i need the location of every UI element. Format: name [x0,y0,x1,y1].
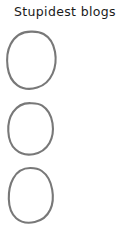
hand-drawn-circle-icon[interactable] [4,28,60,92]
list-item[interactable] [4,28,60,92]
hand-drawn-circle-icon[interactable] [5,164,57,226]
hand-drawn-circle-icon[interactable] [5,99,57,159]
list-item[interactable] [5,164,57,226]
drawing-canvas: Stupidest blogs [0,0,139,236]
page-title: Stupidest blogs [14,2,139,22]
list-item[interactable] [5,99,57,159]
